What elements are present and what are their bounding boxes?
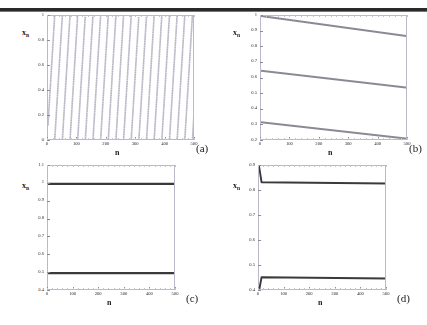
x-minor-tick — [360, 288, 361, 290]
x-minor-tick — [309, 165, 310, 167]
x-minor-tick — [82, 138, 83, 140]
x-minor-tick — [360, 165, 361, 167]
x-minor-tick — [355, 288, 356, 290]
x-minor-tick — [319, 165, 320, 167]
y-tick-mark — [258, 215, 261, 216]
x-minor-tick — [129, 15, 130, 17]
x-minor-tick — [366, 138, 367, 140]
x-minor-tick — [350, 288, 351, 290]
x-minor-tick — [53, 15, 54, 17]
x-tick-label: 200 — [96, 142, 116, 147]
x-minor-tick — [272, 138, 273, 140]
x-minor-tick — [307, 15, 308, 17]
panel-d-xlabel: n — [318, 298, 322, 307]
x-minor-tick — [155, 288, 156, 290]
x-minor-tick — [295, 138, 296, 140]
x-minor-tick — [59, 138, 60, 140]
y-tick-label: 0.8 — [239, 188, 255, 193]
x-tick-label: 200 — [299, 292, 319, 297]
panel-b-plot-area — [260, 15, 407, 140]
x-minor-tick — [376, 165, 377, 167]
x-minor-tick — [88, 165, 89, 167]
x-minor-tick — [47, 288, 48, 290]
x-minor-tick — [170, 165, 171, 167]
panel-c-caption: (c) — [186, 292, 198, 304]
x-minor-tick — [47, 138, 48, 140]
x-minor-tick — [94, 138, 95, 140]
x-minor-tick — [258, 288, 259, 290]
panel-d-line-canvas — [259, 166, 386, 290]
x-minor-tick — [319, 138, 320, 140]
x-minor-tick — [118, 138, 119, 140]
x-tick-label: 0 — [37, 292, 57, 297]
x-minor-tick — [401, 15, 402, 17]
x-minor-tick — [160, 288, 161, 290]
x-minor-tick — [147, 138, 148, 140]
x-minor-tick — [88, 288, 89, 290]
x-minor-tick — [378, 15, 379, 17]
x-minor-tick — [376, 288, 377, 290]
x-tick-label: 200 — [88, 292, 108, 297]
x-tick-label: 200 — [309, 142, 329, 147]
x-minor-tick — [319, 15, 320, 17]
y-tick-mark — [260, 78, 263, 79]
x-minor-tick — [263, 165, 264, 167]
x-tick-label: 0 — [37, 142, 57, 147]
panel-b-ylabel: xn — [233, 28, 240, 38]
x-minor-tick — [149, 288, 150, 290]
x-minor-tick — [103, 165, 104, 167]
x-minor-tick — [76, 15, 77, 17]
y-tick-label: 0.5 — [241, 91, 257, 96]
x-minor-tick — [165, 165, 166, 167]
x-minor-tick — [366, 288, 367, 290]
x-minor-tick — [345, 288, 346, 290]
x-minor-tick — [289, 288, 290, 290]
x-minor-tick — [378, 138, 379, 140]
x-minor-tick — [144, 288, 145, 290]
panel-b-caption: (b) — [409, 142, 422, 154]
y-tick-label: 0.9 — [239, 163, 255, 168]
y-tick-mark — [47, 40, 50, 41]
x-minor-tick — [314, 165, 315, 167]
x-minor-tick — [188, 138, 189, 140]
x-minor-tick — [129, 138, 130, 140]
x-minor-tick — [47, 15, 48, 17]
y-tick-label: 0.6 — [28, 252, 44, 257]
x-minor-tick — [57, 165, 58, 167]
x-tick-label: 400 — [155, 142, 175, 147]
x-minor-tick — [139, 165, 140, 167]
x-minor-tick — [301, 15, 302, 17]
x-minor-tick — [114, 288, 115, 290]
x-minor-tick — [159, 138, 160, 140]
x-minor-tick — [294, 288, 295, 290]
x-minor-tick — [194, 138, 195, 140]
x-minor-tick — [194, 15, 195, 17]
x-minor-tick — [386, 165, 387, 167]
y-tick-mark — [47, 272, 50, 273]
y-tick-mark — [260, 31, 263, 32]
x-minor-tick — [272, 15, 273, 17]
y-tick-mark — [47, 90, 50, 91]
x-minor-tick — [383, 138, 384, 140]
y-tick-mark — [260, 62, 263, 63]
x-minor-tick — [325, 15, 326, 17]
x-minor-tick — [153, 15, 154, 17]
x-minor-tick — [53, 138, 54, 140]
x-minor-tick — [73, 165, 74, 167]
x-minor-tick — [153, 138, 154, 140]
y-tick-mark — [260, 46, 263, 47]
x-tick-label: 300 — [114, 292, 134, 297]
x-tick-label: 400 — [350, 292, 370, 297]
x-minor-tick — [62, 288, 63, 290]
x-minor-tick — [407, 138, 408, 140]
x-minor-tick — [100, 138, 101, 140]
x-minor-tick — [67, 288, 68, 290]
x-tick-label: 100 — [279, 142, 299, 147]
x-minor-tick — [100, 15, 101, 17]
y-tick-mark — [47, 65, 50, 66]
x-minor-tick — [175, 165, 176, 167]
y-tick-label: 1.1 — [28, 163, 44, 168]
x-minor-tick — [350, 165, 351, 167]
x-minor-tick — [366, 15, 367, 17]
x-minor-tick — [119, 288, 120, 290]
